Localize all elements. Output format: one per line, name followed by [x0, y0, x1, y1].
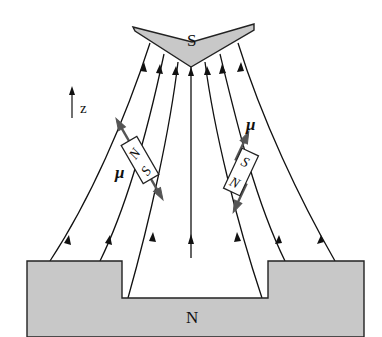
mu-left-label: μ [114, 163, 124, 182]
dipole-right: S N [211, 130, 270, 214]
field-lines [50, 43, 335, 298]
mu-right-label: μ [245, 115, 255, 134]
south-pole-label: S [187, 31, 196, 50]
dipole-left-up-arrow-icon [113, 116, 126, 130]
magnetic-field-diagram: S N z N S μ S N μ [0, 0, 382, 337]
field-arrowheads [64, 62, 324, 245]
z-axis-indicator: z [69, 86, 87, 118]
z-axis-label: z [80, 100, 87, 116]
z-axis-arrow-icon [69, 86, 75, 95]
north-pole-label: N [186, 308, 198, 327]
